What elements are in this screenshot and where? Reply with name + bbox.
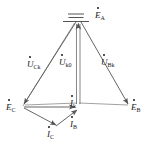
- phasor-dot-icon: [29, 56, 31, 58]
- phasor-dot-icon: [8, 99, 10, 101]
- label-e-a: EA: [95, 11, 105, 20]
- vector-u-k0: [75, 23, 81, 105]
- label-u-ck: UCk: [27, 60, 41, 69]
- ground-symbol: [63, 14, 89, 22]
- phasor-dot-icon: [71, 116, 73, 118]
- phasor-diagram-figure: EA UCk Uk0 UBk EC EB Ik IB IC: [0, 0, 152, 148]
- label-u-bk: UBk: [101, 58, 115, 67]
- phasor-dot-icon: [103, 54, 105, 56]
- label-i-k: Ik: [70, 99, 76, 108]
- phasor-dot-icon: [61, 54, 63, 56]
- phasor-dot-icon: [71, 95, 73, 97]
- label-i-c: IC: [47, 130, 54, 139]
- label-i-b: IB: [70, 120, 77, 129]
- label-u-k0: Uk0: [59, 58, 72, 67]
- edge-fault-right: [79, 103, 128, 105]
- vector-i-c: [24, 108, 56, 125]
- phasor-dot-icon: [97, 7, 99, 9]
- phasor-dot-icon: [133, 99, 135, 101]
- phasor-dot-icon: [48, 126, 50, 128]
- label-e-c: EC: [6, 103, 16, 112]
- label-e-b: EB: [131, 103, 141, 112]
